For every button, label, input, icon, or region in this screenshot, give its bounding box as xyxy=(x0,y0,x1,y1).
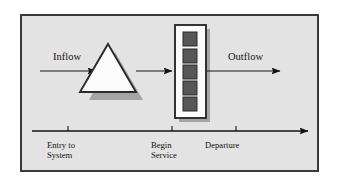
axis-label-line1: Departure xyxy=(205,140,239,150)
inflow-label: Inflow xyxy=(53,51,81,63)
axis-label-line2: System xyxy=(47,150,75,160)
queue-entity xyxy=(183,32,197,46)
figure-canvas: Inflow Outflow Entry to System Begin Ser… xyxy=(0,0,342,187)
axis-label-line1: Begin xyxy=(151,140,172,150)
axis-label-line2: Service xyxy=(151,150,177,160)
axis-label-departure: Departure xyxy=(205,140,239,150)
queue-entities xyxy=(183,32,197,111)
queue-entity xyxy=(183,65,197,79)
queue-entity xyxy=(183,81,197,95)
queue-entity xyxy=(183,49,197,63)
time-axis xyxy=(32,126,308,131)
axis-label-entry-to-system: Entry to System xyxy=(47,140,75,160)
axis-label-line1: Entry to xyxy=(47,140,75,150)
outflow-label: Outflow xyxy=(228,51,263,63)
queue-entity xyxy=(183,97,197,111)
axis-label-begin-service: Begin Service xyxy=(151,140,177,160)
source-triangle xyxy=(80,44,143,100)
